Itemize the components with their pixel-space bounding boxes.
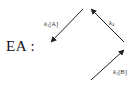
rate-concentration: [B]	[118, 68, 127, 75]
rate-subscript: 4	[112, 22, 114, 27]
arrow-k4	[91, 9, 124, 42]
rate-concentration: [A]	[49, 20, 58, 27]
rate-label-k1b: k1[B]	[113, 68, 127, 78]
rate-label-k4: k4	[109, 19, 114, 29]
rate-label-k1a: k1[A]	[44, 20, 58, 30]
arrow-layer	[0, 0, 134, 97]
